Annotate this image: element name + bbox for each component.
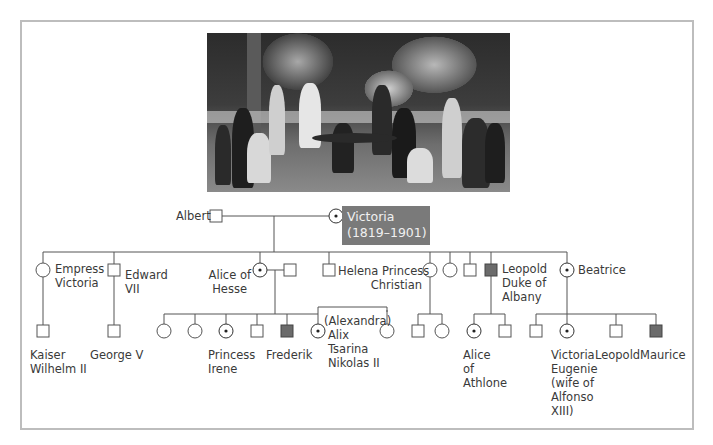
leopold-duke-label: LeopoldDuke ofAlbany (502, 262, 547, 304)
victoria-dates: (1819–1901) (347, 225, 430, 241)
alice-spouse-square-icon (284, 264, 296, 276)
leopold-square-icon (610, 325, 622, 337)
frederik-label: Frederik (266, 348, 312, 362)
son-square-icon (412, 325, 424, 337)
leopold-affected-square-icon (485, 264, 497, 276)
helena-label: Helena PrincessChristian (338, 264, 422, 292)
son-square-icon (464, 264, 476, 276)
beatrice-label: Beatrice (578, 263, 626, 277)
alice-hesse-label: Alice ofHesse (208, 268, 251, 296)
leopold-label: Leopold (595, 348, 640, 362)
princess-irene-label: PrincessIrene (208, 348, 255, 376)
victoria-eugenie-label: VictoriaEugenie(wife ofAlfonsoXIII) (551, 348, 598, 418)
empress-victoria-label: EmpressVictoria (55, 262, 104, 290)
daughter-circle-icon (443, 263, 457, 277)
kaiser-wilhelm-label: KaiserWilhelm II (30, 348, 87, 376)
daughter-circle-icon (157, 324, 171, 338)
son-square-icon (323, 264, 335, 276)
kaiser-wilhelm-square-icon (37, 325, 49, 337)
daughter-circle-icon (188, 324, 202, 338)
albert-label: Albert (176, 209, 211, 223)
alix-label: (Alexandra) Alix Tsarina Nikolas II (324, 314, 391, 370)
george-v-label: George V (90, 348, 143, 362)
victoria-highlight-box: Victoria (1819–1901) (342, 206, 430, 245)
victoria-label: Victoria (347, 209, 430, 225)
son-square-icon (251, 325, 263, 337)
daughter-circle-icon (435, 324, 449, 338)
maurice-label: Maurice (640, 348, 686, 362)
maurice-affected-square-icon (650, 325, 662, 337)
empress-victoria-circle-icon (36, 263, 50, 277)
edward-vii-label: EdwardVII (125, 268, 168, 296)
edward-vii-square-icon (108, 264, 120, 276)
son-square-icon (530, 325, 542, 337)
alice-athlone-label: AliceofAthlone (463, 348, 507, 390)
frederik-affected-square-icon (281, 325, 293, 337)
son-square-icon (499, 325, 511, 337)
george-v-square-icon (108, 325, 120, 337)
albert-square-icon (210, 210, 222, 222)
